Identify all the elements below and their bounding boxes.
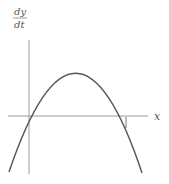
y-label-denominator: dt	[14, 19, 25, 30]
x-label: x	[154, 110, 161, 123]
y-label-numerator: dy	[14, 6, 26, 17]
diagram: dy dt x	[0, 0, 169, 184]
